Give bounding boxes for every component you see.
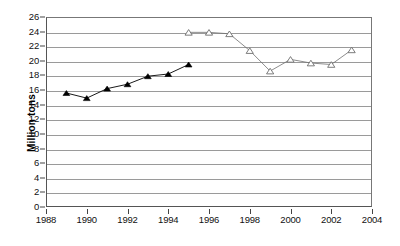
- y-tick-mark: [40, 177, 45, 178]
- x-tick-mark: [128, 209, 129, 214]
- gridline: [47, 120, 371, 121]
- y-tick-mark: [40, 75, 45, 76]
- y-tick-mark: [40, 148, 45, 149]
- y-tick-mark: [40, 90, 45, 91]
- x-tick-mark: [331, 209, 332, 214]
- x-tick-label: 1998: [240, 215, 260, 225]
- chart-container: Million tons 02468101214161820222426 198…: [0, 0, 400, 246]
- gridline: [47, 33, 371, 34]
- y-tick-mark: [40, 17, 45, 18]
- gridline: [47, 164, 371, 165]
- x-tick-label: 1992: [117, 215, 137, 225]
- y-tick-mark: [40, 192, 45, 193]
- y-tick-label: 16: [29, 85, 39, 95]
- gridline: [47, 179, 371, 180]
- gridline: [47, 193, 371, 194]
- x-tick-mark: [87, 209, 88, 214]
- y-tick-label: 26: [29, 12, 39, 22]
- y-tick-label: 14: [29, 100, 39, 110]
- gridline: [47, 62, 371, 63]
- y-tick-mark: [40, 163, 45, 164]
- y-tick-mark: [40, 207, 45, 208]
- y-tick-label: 10: [29, 129, 39, 139]
- y-tick-mark: [40, 133, 45, 134]
- y-tick-label: 8: [34, 144, 39, 154]
- y-tick-label: 18: [29, 71, 39, 81]
- x-tick-label: 1996: [199, 215, 219, 225]
- y-tick-mark: [40, 60, 45, 61]
- gridline: [47, 135, 371, 136]
- x-tick-label: 1994: [158, 215, 178, 225]
- x-tick-mark: [291, 209, 292, 214]
- y-tick-label: 24: [29, 27, 39, 37]
- gridline: [47, 150, 371, 151]
- y-tick-label: 2: [34, 188, 39, 198]
- x-tick-mark: [46, 209, 47, 214]
- y-tick-label: 12: [29, 115, 39, 125]
- gridline: [47, 106, 371, 107]
- x-tick-label: 2004: [362, 215, 382, 225]
- x-tick-mark: [168, 209, 169, 214]
- y-tick-mark: [40, 104, 45, 105]
- x-axis-ticks: 198819901992199419961998200020022004: [0, 209, 400, 233]
- gridline: [47, 47, 371, 48]
- x-tick-mark: [372, 209, 373, 214]
- x-tick-mark: [209, 209, 210, 214]
- x-tick-label: 1990: [77, 215, 97, 225]
- y-tick-mark: [40, 119, 45, 120]
- plot-area: [46, 17, 372, 207]
- x-tick-mark: [250, 209, 251, 214]
- gridline: [47, 76, 371, 77]
- y-tick-label: 4: [34, 173, 39, 183]
- y-tick-label: 22: [29, 41, 39, 51]
- gridline: [47, 91, 371, 92]
- y-tick-label: 20: [29, 56, 39, 66]
- x-tick-label: 2000: [280, 215, 300, 225]
- x-tick-label: 2002: [321, 215, 341, 225]
- y-tick-mark: [40, 46, 45, 47]
- x-tick-label: 1988: [36, 215, 56, 225]
- y-tick-label: 6: [34, 158, 39, 168]
- y-tick-mark: [40, 31, 45, 32]
